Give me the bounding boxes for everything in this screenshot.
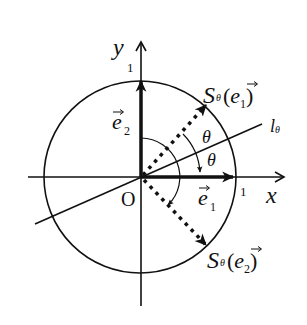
y-tick-label: 1 <box>127 60 134 75</box>
svg-text:Sθ(e1): Sθ(e1) <box>203 82 253 111</box>
label-e1: e 1 <box>198 185 216 214</box>
svg-text:e: e <box>198 185 208 210</box>
svg-text:2: 2 <box>124 124 130 138</box>
x-axis-label: x <box>265 182 277 208</box>
y-axis-label: y <box>111 34 124 60</box>
angle-label-upper: θ <box>202 127 211 147</box>
svg-text:1: 1 <box>210 200 216 214</box>
label-s-e1: Sθ(e1) <box>203 82 258 112</box>
label-s-e2: Sθ(e2) <box>207 247 262 277</box>
vector-s-e2 <box>144 180 206 245</box>
angle-arc-e2-to-s-e2 <box>141 138 180 205</box>
angle-label-lower: θ <box>207 150 216 170</box>
label-e2: e 2 <box>112 109 130 138</box>
reflection-diagram: 1 1 y x O lθ θ θ e 2 e 1 Sθ(e1) Sθ(e2) <box>0 0 307 325</box>
svg-text:Sθ(e2): Sθ(e2) <box>207 247 257 276</box>
svg-text:e: e <box>112 109 122 134</box>
x-tick-label: 1 <box>240 184 247 199</box>
line-label: lθ <box>270 116 280 136</box>
origin-label: O <box>121 188 135 210</box>
